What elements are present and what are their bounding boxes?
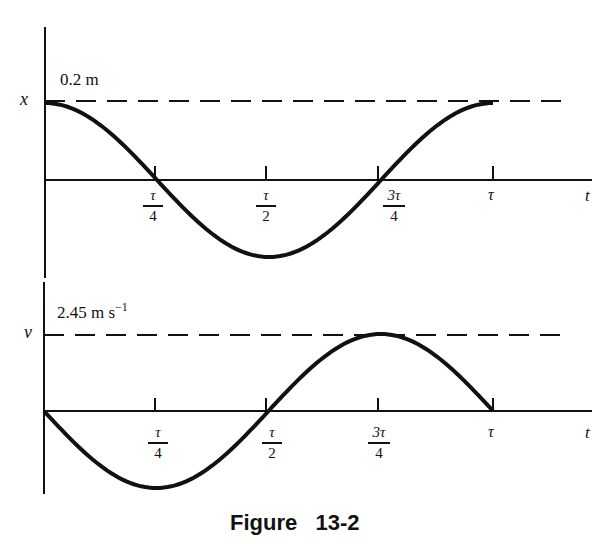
- top-y-axis-label: x: [20, 89, 28, 110]
- tick-numerator: τ: [155, 425, 160, 440]
- fraction-bar: [368, 442, 390, 444]
- bottom-tick-label-tau: τ: [488, 423, 494, 441]
- tick-numerator: τ: [269, 425, 274, 440]
- tick-denominator: 4: [375, 446, 383, 461]
- fraction-bar: [256, 205, 276, 207]
- tick-numerator: τ: [263, 188, 268, 203]
- amplitude-exponent: −1: [115, 300, 128, 314]
- fraction-bar: [148, 442, 168, 444]
- top-t-axis-label: t: [585, 186, 590, 206]
- fraction-bar: [262, 442, 282, 444]
- tick-denominator: 2: [262, 209, 270, 224]
- bottom-tick-label-half: τ 2: [262, 425, 282, 461]
- top-tick-label-quarter: τ 4: [143, 188, 163, 224]
- top-tick-label-tau: τ: [488, 186, 494, 204]
- tick-numerator: 3τ: [373, 425, 386, 440]
- fraction-bar: [143, 205, 163, 207]
- amplitude-value: 2.45 m s: [57, 303, 115, 322]
- fraction-bar: [383, 205, 405, 207]
- top-tick-label-three-quarter: 3τ 4: [383, 188, 405, 224]
- tick-denominator: 4: [149, 209, 157, 224]
- tick-numerator: 3τ: [388, 188, 401, 203]
- tick-numerator: τ: [150, 188, 155, 203]
- top-tick-label-half: τ 2: [256, 188, 276, 224]
- bottom-amplitude-label: 2.45 m s−1: [57, 300, 128, 323]
- top-amplitude-label: 0.2 m: [60, 70, 99, 90]
- bottom-tick-label-quarter: τ 4: [148, 425, 168, 461]
- top-ticks: [155, 166, 493, 180]
- tick-denominator: 4: [390, 209, 398, 224]
- bottom-ticks: [155, 398, 493, 411]
- tick-denominator: 2: [268, 446, 276, 461]
- bottom-y-axis-label: v: [24, 322, 32, 343]
- tick-denominator: 4: [154, 446, 162, 461]
- bottom-t-axis-label: t: [585, 423, 590, 443]
- figure-caption: Figure 13-2: [230, 510, 360, 536]
- bottom-tick-label-three-quarter: 3τ 4: [368, 425, 390, 461]
- top-plot: [45, 27, 592, 278]
